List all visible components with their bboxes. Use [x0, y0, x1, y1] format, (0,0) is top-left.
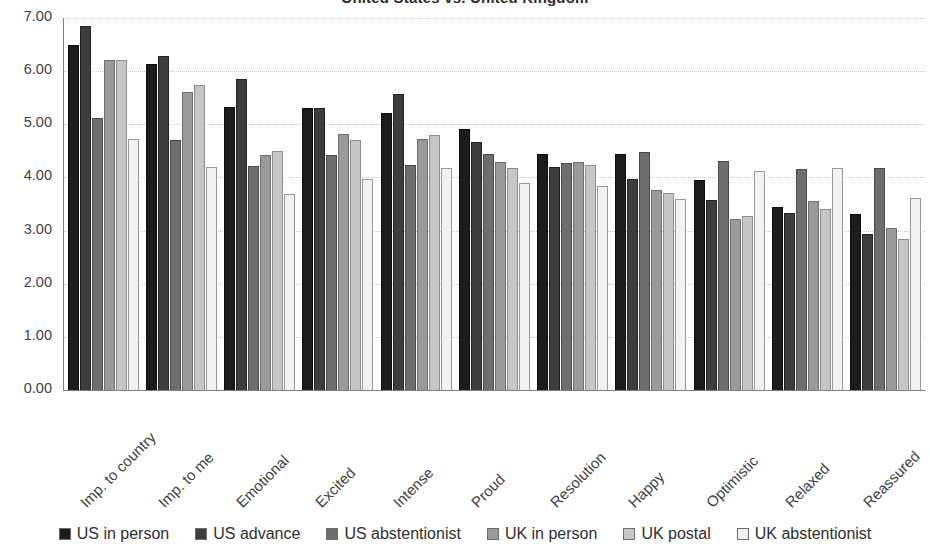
y-axis-tick-label: 2.00 [0, 274, 52, 290]
bar [820, 209, 831, 390]
x-axis-category-label: Optimistic [704, 453, 761, 510]
bar-groups [64, 18, 925, 390]
legend-label: US abstentionist [344, 525, 461, 543]
bar [850, 214, 861, 390]
bar [483, 154, 494, 390]
bar [639, 152, 650, 390]
bar [272, 151, 283, 390]
bar [706, 200, 717, 390]
legend-swatch-icon [326, 528, 338, 540]
bar [651, 190, 662, 390]
bar [573, 162, 584, 391]
bar [615, 154, 626, 390]
legend-swatch-icon [195, 528, 207, 540]
y-axis-tick-label: 7.00 [0, 8, 52, 24]
bar [248, 166, 259, 390]
bar [742, 216, 753, 390]
legend-label: US advance [213, 525, 300, 543]
bar [675, 199, 686, 390]
chart-legend: US in personUS advanceUS abstentionistUK… [0, 525, 930, 543]
chart-root: United States vs. United Kingdom 0.001.0… [0, 0, 930, 555]
bar-group [768, 18, 846, 390]
bar [507, 168, 518, 390]
bar-group [534, 18, 612, 390]
bar [393, 94, 404, 390]
bar [627, 179, 638, 391]
bar-group [612, 18, 690, 390]
bar [158, 56, 169, 390]
bar [519, 183, 530, 390]
bar [338, 134, 349, 390]
bar [459, 129, 470, 390]
bar-group [64, 18, 142, 390]
x-axis-category-label: Happy [625, 469, 666, 510]
bar [429, 135, 440, 390]
bar [362, 179, 373, 390]
bar [730, 219, 741, 390]
bar-group [299, 18, 377, 390]
x-axis-category-label: Intense [390, 465, 435, 510]
x-axis-category-label: Emotional [234, 452, 292, 510]
bar [68, 45, 79, 390]
legend-label: UK in person [505, 525, 598, 543]
bar [549, 167, 560, 390]
bar [326, 155, 337, 390]
x-axis-category-label: Excited [312, 465, 357, 510]
legend-swatch-icon [59, 528, 71, 540]
y-axis-tick-label: 0.00 [0, 380, 52, 396]
y-axis-tick-label: 6.00 [0, 61, 52, 77]
bar-group [221, 18, 299, 390]
bar [350, 140, 361, 390]
bar [561, 163, 572, 390]
bar [405, 165, 416, 390]
bar [898, 239, 909, 390]
bar [772, 207, 783, 390]
bar [284, 194, 295, 390]
x-axis-category-label: Imp. to country [77, 429, 158, 510]
bar-group [377, 18, 455, 390]
bar [537, 154, 548, 390]
legend-label: UK abstentionist [755, 525, 872, 543]
bar [495, 162, 506, 391]
bar [224, 107, 235, 390]
legend-swatch-icon [487, 528, 499, 540]
legend-label: UK postal [641, 525, 710, 543]
bar [694, 180, 705, 390]
x-axis-category-labels: Imp. to countryImp. to meEmotionalExcite… [64, 392, 926, 510]
bar [104, 60, 115, 390]
bar-group [847, 18, 925, 390]
bar [417, 139, 428, 390]
legend-item[interactable]: US in person [59, 525, 170, 543]
bar [886, 228, 897, 390]
bar [585, 165, 596, 390]
bar [92, 118, 103, 390]
legend-item[interactable]: UK abstentionist [737, 525, 872, 543]
legend-swatch-icon [623, 528, 635, 540]
bar [206, 167, 217, 390]
x-axis-category-label: Reassured [861, 448, 923, 510]
bar [910, 198, 921, 390]
bar [236, 79, 247, 390]
chart-title: United States vs. United Kingdom [0, 0, 930, 6]
bar [754, 171, 765, 390]
bar [832, 168, 843, 390]
y-axis-tick-label: 1.00 [0, 327, 52, 343]
legend-item[interactable]: US advance [195, 525, 300, 543]
bar [862, 234, 873, 390]
x-axis-category-label: Imp. to me [155, 449, 216, 510]
x-axis-category-label: Resolution [547, 449, 608, 510]
bar [80, 26, 91, 390]
x-axis-line [63, 390, 925, 391]
legend-swatch-icon [737, 528, 749, 540]
legend-item[interactable]: UK in person [487, 525, 598, 543]
bar [663, 193, 674, 390]
bar [471, 142, 482, 390]
legend-item[interactable]: US abstentionist [326, 525, 461, 543]
bar-group [455, 18, 533, 390]
bar [194, 85, 205, 390]
bar-group [690, 18, 768, 390]
bar [784, 213, 795, 390]
legend-item[interactable]: UK postal [623, 525, 710, 543]
bar [381, 113, 392, 390]
y-axis-tick-label: 5.00 [0, 114, 52, 130]
